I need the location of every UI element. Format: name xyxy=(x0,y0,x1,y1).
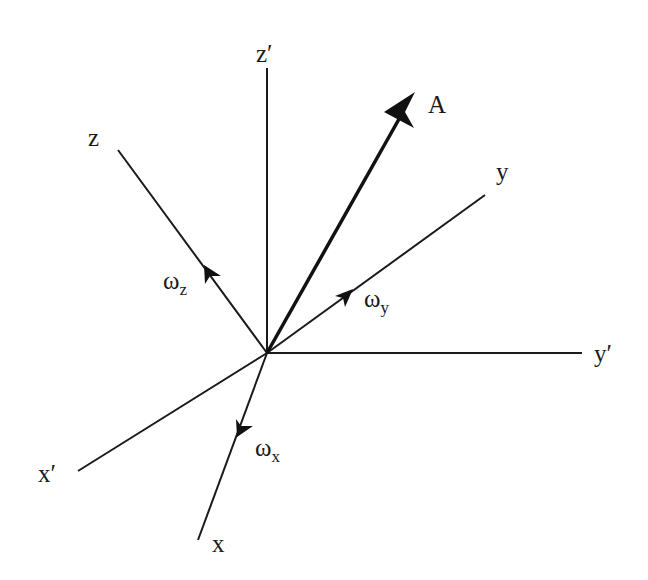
z-label: z xyxy=(88,124,99,151)
omega-x-arrowhead-icon xyxy=(236,419,253,437)
omega-y-arrowhead-icon xyxy=(335,289,353,307)
x-prime-axis xyxy=(78,353,267,471)
z-axis xyxy=(118,150,267,353)
omega-y-label: ωy xyxy=(364,285,389,317)
omega-x-label: ωx xyxy=(255,434,280,466)
z-prime-label: z′ xyxy=(256,40,273,67)
vector-a-arrowhead xyxy=(384,92,415,128)
y-label: y xyxy=(496,158,509,185)
y-prime-label: y′ xyxy=(594,340,612,367)
x-label: x xyxy=(212,530,225,557)
omega-z-arrowhead-icon xyxy=(204,265,221,284)
x-prime-label: x′ xyxy=(38,460,56,487)
y-axis xyxy=(267,195,485,353)
omega-z-label: ωz xyxy=(163,267,187,299)
rotating-frame-diagram: z′ y′ x′ z y x A ωz ωy ωx xyxy=(0,0,648,580)
vector-a-label: A xyxy=(428,91,446,118)
